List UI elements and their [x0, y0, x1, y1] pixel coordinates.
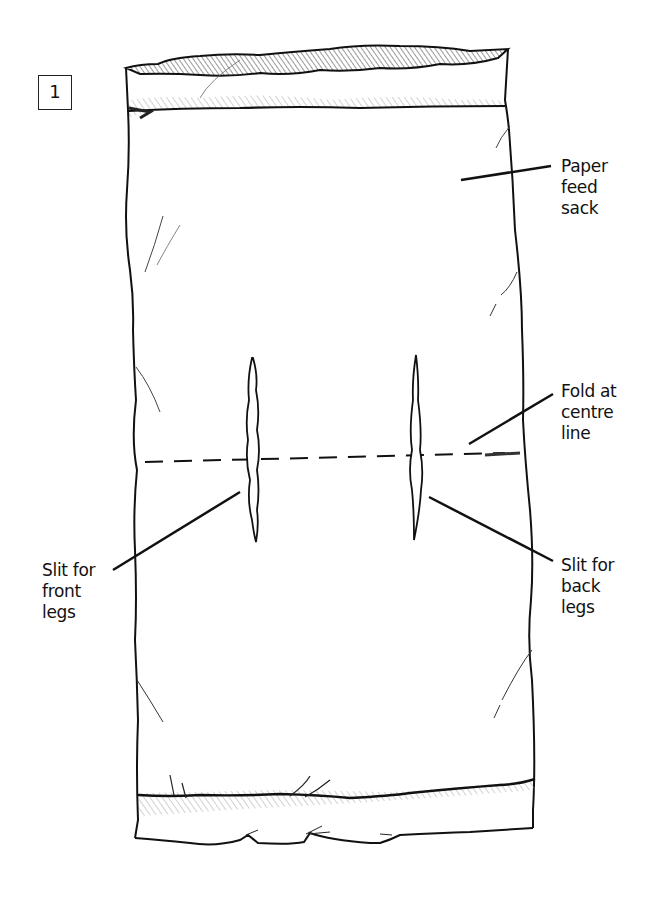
back-legs-slit — [410, 355, 422, 540]
label-fold-centre-line: Fold at centre line — [561, 381, 616, 444]
front-slit-leader-line — [113, 492, 240, 570]
sack-bottom-edge — [135, 826, 533, 844]
label-line: Fold at — [561, 381, 616, 402]
front-legs-slit — [247, 358, 259, 542]
label-line: legs — [561, 597, 614, 618]
back-slit-leader-line — [429, 497, 553, 561]
label-slit-front-legs: Slit for front legs — [42, 560, 95, 623]
label-slit-back-legs: Slit for back legs — [561, 555, 614, 618]
fold-centre-line — [145, 453, 520, 462]
label-line: Paper — [561, 156, 608, 177]
label-line: front — [42, 581, 95, 602]
sack-top-hem — [129, 95, 505, 118]
sack-top-edge — [126, 45, 508, 75]
label-line: Slit for — [561, 555, 614, 576]
sack-leader-line — [461, 166, 551, 180]
label-line: back — [561, 576, 614, 597]
label-line: Slit for — [42, 560, 95, 581]
fold-leader-line — [469, 394, 553, 444]
label-line: line — [561, 423, 616, 444]
label-line: feed — [561, 177, 608, 198]
sack-outline — [126, 49, 534, 838]
label-line: centre — [561, 402, 616, 423]
label-line: legs — [42, 602, 95, 623]
feed-sack-diagram — [0, 0, 666, 897]
sack-bottom-hem — [138, 775, 535, 816]
label-line: sack — [561, 198, 608, 219]
label-paper-feed-sack: Paper feed sack — [561, 156, 608, 219]
